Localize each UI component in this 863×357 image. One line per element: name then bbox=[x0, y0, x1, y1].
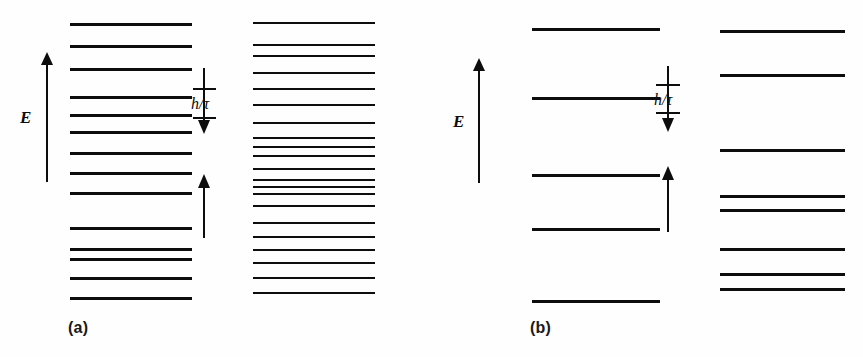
gap-tick-upper-b bbox=[656, 84, 680, 86]
energy-level bbox=[720, 30, 845, 33]
energy-level bbox=[253, 262, 375, 264]
energy-level bbox=[70, 131, 192, 134]
energy-level bbox=[720, 74, 845, 77]
energy-level bbox=[253, 146, 375, 148]
energy-level-figure: E h/τ (a) E h/τ (b) bbox=[0, 0, 863, 357]
energy-level bbox=[253, 193, 375, 195]
energy-level bbox=[253, 72, 375, 74]
gap-label-a: h/τ bbox=[191, 96, 209, 112]
axis-shaft bbox=[46, 63, 48, 182]
energy-level bbox=[720, 149, 845, 152]
energy-level bbox=[253, 137, 375, 139]
energy-level bbox=[253, 44, 375, 46]
panel-caption-a: (a) bbox=[68, 320, 88, 336]
energy-level bbox=[720, 273, 845, 276]
energy-level bbox=[253, 22, 375, 24]
energy-level bbox=[253, 186, 375, 188]
energy-level bbox=[70, 172, 192, 175]
energy-axis-a bbox=[40, 52, 54, 182]
energy-level bbox=[70, 45, 192, 48]
energy-level bbox=[253, 292, 375, 294]
down-arrow-shaft bbox=[203, 68, 205, 120]
up-arrow-shaft bbox=[203, 188, 205, 238]
gap-annotation-a bbox=[196, 68, 212, 238]
energy-level bbox=[70, 192, 192, 195]
energy-level bbox=[253, 205, 375, 207]
up-arrow-shaft bbox=[667, 180, 669, 232]
energy-level bbox=[532, 174, 660, 177]
energy-level bbox=[70, 297, 192, 300]
energy-level bbox=[70, 152, 192, 155]
energy-level bbox=[253, 222, 375, 224]
energy-axis-label-a: E bbox=[20, 109, 31, 126]
energy-level bbox=[253, 55, 375, 57]
energy-level bbox=[253, 277, 375, 279]
axis-shaft bbox=[478, 69, 480, 183]
arrow-head-down-icon bbox=[198, 120, 210, 134]
energy-level bbox=[70, 248, 192, 251]
energy-level bbox=[720, 248, 845, 251]
arrow-head-up-icon bbox=[198, 174, 210, 188]
energy-level bbox=[532, 28, 660, 31]
energy-level bbox=[253, 249, 375, 251]
energy-level bbox=[70, 68, 192, 71]
energy-level bbox=[70, 96, 192, 99]
panel-caption-b: (b) bbox=[530, 320, 551, 336]
energy-level bbox=[532, 97, 660, 100]
arrow-head-down-icon bbox=[662, 118, 674, 132]
energy-level bbox=[70, 23, 192, 26]
energy-level bbox=[70, 227, 192, 230]
arrow-head-up-icon bbox=[662, 166, 674, 180]
energy-level bbox=[253, 88, 375, 90]
energy-level bbox=[70, 114, 192, 117]
energy-level bbox=[253, 155, 375, 157]
gap-tick-lower-a bbox=[193, 117, 216, 119]
energy-level bbox=[253, 168, 375, 170]
energy-level bbox=[720, 288, 845, 291]
energy-level bbox=[720, 195, 845, 198]
energy-axis-b bbox=[472, 58, 486, 183]
panel-a: E h/τ (a) bbox=[0, 0, 432, 357]
energy-level bbox=[532, 300, 660, 303]
energy-level bbox=[532, 228, 660, 231]
energy-level bbox=[253, 236, 375, 238]
gap-tick-upper-a bbox=[193, 88, 216, 90]
energy-level bbox=[70, 258, 192, 261]
energy-level bbox=[253, 179, 375, 181]
panel-b: E h/τ (b) bbox=[432, 0, 863, 357]
gap-label-b: h/τ bbox=[654, 92, 672, 108]
energy-level bbox=[70, 277, 192, 280]
gap-tick-lower-b bbox=[656, 112, 680, 114]
energy-axis-label-b: E bbox=[453, 113, 464, 130]
energy-level bbox=[253, 122, 375, 124]
energy-level bbox=[253, 104, 375, 106]
energy-level bbox=[720, 209, 845, 212]
